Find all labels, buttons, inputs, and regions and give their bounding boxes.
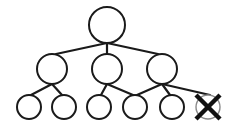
edge-root-m1 xyxy=(56,43,107,54)
root-node xyxy=(89,7,125,43)
tree-diagram xyxy=(0,0,235,128)
edge-m2-b3 xyxy=(101,84,107,95)
node-circle-root xyxy=(89,7,125,43)
tree-node xyxy=(160,95,184,119)
tree-node xyxy=(37,54,67,84)
tree-node xyxy=(87,95,111,119)
edge-m2-b4 xyxy=(107,84,133,95)
node-circle-b4 xyxy=(123,95,147,119)
tree-node xyxy=(92,54,122,84)
node-circle-b5 xyxy=(160,95,184,119)
node-circle-m3 xyxy=(147,54,177,84)
node-circle-b1 xyxy=(17,95,41,119)
edge-m3-b4 xyxy=(137,84,162,95)
node-circle-m2 xyxy=(92,54,122,84)
node-circle-b2 xyxy=(52,95,76,119)
node-circle-m1 xyxy=(37,54,67,84)
edge-m1-b1 xyxy=(31,84,52,95)
nodes-group xyxy=(17,7,220,119)
edge-m1-b2 xyxy=(52,84,62,95)
tree-node xyxy=(17,95,41,119)
tree-node xyxy=(52,95,76,119)
edge-root-m3 xyxy=(107,43,158,54)
removed-node xyxy=(196,95,220,119)
tree-node xyxy=(147,54,177,84)
node-circle-b3 xyxy=(87,95,111,119)
tree-node xyxy=(123,95,147,119)
